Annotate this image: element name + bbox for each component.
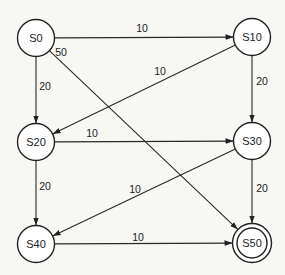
edge-weight-label: 20	[39, 80, 51, 92]
state-node-s50: S50	[233, 224, 272, 263]
edge-weight-label: 50	[55, 46, 67, 58]
state-label: S10	[242, 31, 262, 43]
state-node-s30: S30	[234, 123, 271, 160]
arrow-icon	[55, 37, 234, 38]
edge-weight-label: 20	[256, 182, 268, 194]
edge-weight-label: 10	[132, 231, 144, 243]
edge-weight-label: 10	[136, 22, 148, 34]
edge-weight-label: 10	[129, 183, 141, 195]
arrow-icon	[53, 45, 236, 134]
state-node-s20: S20	[18, 124, 55, 161]
edges-layer	[36, 37, 252, 244]
edge-s0-to-s10	[55, 37, 234, 38]
edge-s0-to-s50	[49, 51, 238, 230]
edge-weight-label: 20	[39, 180, 51, 192]
edge-s40-to-s50	[55, 243, 233, 244]
edge-weight-label: 10	[154, 65, 166, 77]
edge-s30-to-s40	[53, 149, 236, 236]
arrow-icon	[55, 243, 233, 244]
edge-weight-label: 20	[256, 75, 268, 87]
edge-weight-label: 10	[86, 127, 98, 139]
arrow-icon	[49, 51, 238, 230]
arrow-icon	[55, 141, 234, 142]
edge-s10-to-s20	[53, 45, 236, 134]
state-node-s10: S10	[234, 19, 271, 56]
edge-s20-to-s30	[55, 141, 234, 142]
state-label: S50	[242, 237, 262, 249]
state-node-s40: S40	[18, 226, 55, 263]
state-label: S0	[29, 32, 42, 44]
state-label: S40	[26, 238, 46, 250]
state-label: S20	[26, 136, 46, 148]
state-diagram: 10205010201020102010 S0S10S20S30S40S50	[0, 0, 285, 275]
state-label: S30	[242, 135, 262, 147]
state-node-s0: S0	[18, 20, 55, 57]
edge-labels-layer: 10205010201020102010	[39, 22, 268, 243]
arrow-icon	[53, 149, 236, 236]
